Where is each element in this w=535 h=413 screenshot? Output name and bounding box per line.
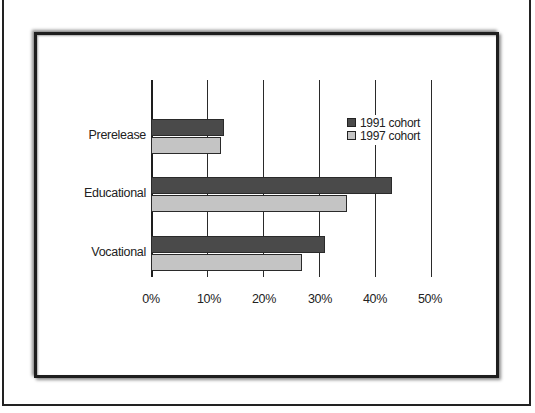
bar-educational-1991: [151, 177, 392, 194]
legend-label-1991: 1991 cohort: [360, 116, 420, 130]
legend-item-1997: 1997 cohort: [347, 129, 420, 142]
legend-label-1997: 1997 cohort: [360, 129, 420, 143]
category-label-educational: Educational: [84, 186, 146, 200]
legend-swatch-1997: [347, 131, 356, 140]
bar-chart: Prerelease Educational Vocational 0% 10%…: [0, 0, 535, 413]
x-tick-40: 40%: [363, 292, 387, 306]
bar-vocational-1991: [151, 236, 325, 253]
chart-legend: 1991 cohort 1997 cohort: [344, 115, 424, 145]
x-tick-20: 20%: [252, 292, 276, 306]
bar-vocational-1997: [151, 254, 302, 271]
x-tick-10: 10%: [197, 292, 221, 306]
x-tick-0: 0%: [142, 292, 159, 306]
category-label-prerelease: Prerelease: [89, 128, 146, 142]
bar-educational-1997: [151, 195, 347, 212]
legend-swatch-1991: [347, 118, 356, 127]
gridline-50: [431, 80, 432, 277]
legend-item-1991: 1991 cohort: [347, 116, 420, 129]
x-tick-50: 50%: [418, 292, 442, 306]
bar-prerelease-1991: [151, 119, 224, 136]
category-label-vocational: Vocational: [91, 245, 146, 259]
bar-prerelease-1997: [151, 137, 221, 154]
x-tick-30: 30%: [308, 292, 332, 306]
